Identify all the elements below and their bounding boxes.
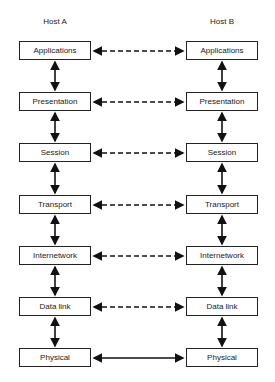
connector-arrows — [0, 0, 275, 382]
